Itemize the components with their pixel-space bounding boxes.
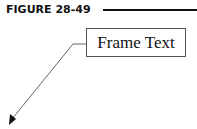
frame-text-box: Frame Text <box>86 28 186 57</box>
leader-line-with-arrow <box>0 0 197 129</box>
frame-text: Frame Text <box>97 33 174 53</box>
